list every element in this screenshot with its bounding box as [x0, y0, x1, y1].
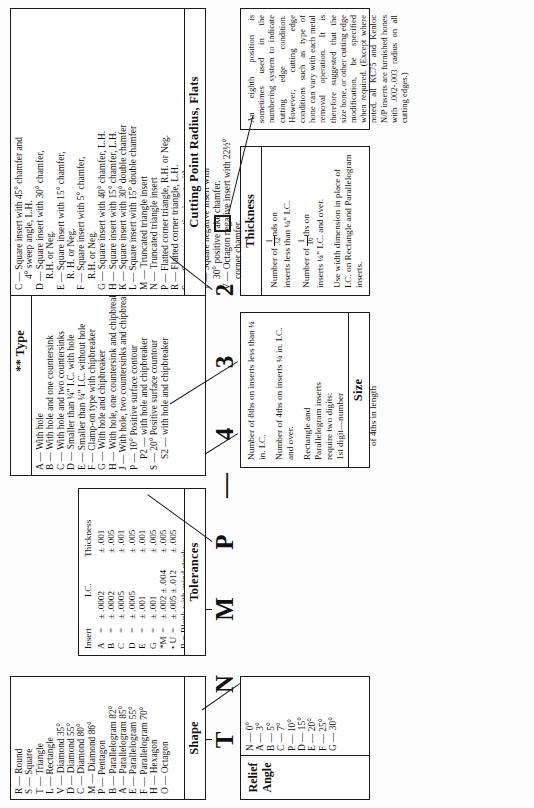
list-item: M — Diamond 86° — [87, 682, 97, 794]
list-item: N — Truncated triangle insert — [149, 14, 159, 290]
list-item: V — Diamond 35° — [56, 682, 66, 794]
tolerance-ic: ± .0005 — [127, 553, 137, 619]
thickness-p2-b: ths on — [302, 214, 312, 236]
size-box: Number of 8ths on inserts less than ¼ in… — [240, 312, 370, 468]
tolerances-box: Insert I.C. Thickness A = ± .0002 ± .001… — [78, 488, 206, 656]
size-p3-line-2: Parallelogram inserts — [313, 382, 323, 460]
list-item: G — 30° — [328, 717, 338, 751]
list-item: L — Square insert with 15° double chamfe… — [128, 14, 138, 290]
table-row: • U = ± .005 ± .012 ± .005 — [168, 495, 178, 649]
list-item: G — Square insert with 40° chamfer, L.H. — [97, 14, 107, 290]
tolerance-code: C — [116, 633, 126, 649]
thickness-p1-c: inserts less than ¼" I.C. — [282, 201, 292, 288]
list-item: R — Flatted corner triangle, L.H. — [170, 14, 180, 290]
list-item: E — Parallelogram 55° — [128, 682, 138, 794]
eighth-position-note-body: An eighth position is sometimes used in … — [241, 9, 414, 129]
list-item: R — Round — [14, 682, 24, 794]
fraction-1-16: 116 — [299, 236, 314, 245]
leader-line-tolerances — [206, 609, 212, 610]
cutting-point-code-list: C — Square insert with 45° chamfer and 4… — [14, 14, 243, 290]
table-row: E = ± .001 ± .001 — [137, 495, 147, 649]
tolerance-code: G — [148, 633, 158, 649]
relief-list-body: N — 0° A — 3° B — 5° C — 7° P — 10° D — … — [245, 717, 339, 751]
eighth-position-note-text: An eighth position is sometimes used in … — [246, 15, 409, 123]
tolerances-col-insert: Insert — [83, 597, 94, 649]
leader-line-shape — [206, 739, 212, 740]
tolerances-caption: Tolerances — [184, 489, 205, 655]
thickness-box: Thickness Number of 132nds on inserts le… — [240, 146, 370, 296]
thickness-paragraph-2: Number of 116ths on inserts ¼" I.C. and … — [299, 154, 325, 288]
list-item: D — Square insert with 30° chamfer, — [35, 14, 45, 290]
list-item: P — Flatted corner triangle, R.H. or Neg… — [160, 14, 170, 290]
cutting-point-caption: Cutting Point Radius, Flats — [184, 9, 205, 295]
cutting-point-radius-box: C — Square insert with 45° chamfer and 4… — [10, 8, 206, 296]
list-item: V — Octagon negative insert with 22½° — [222, 14, 232, 290]
thickness-body: Number of 132nds on inserts less than ¼"… — [262, 147, 365, 295]
list-item: T — Triangle — [35, 682, 45, 794]
tolerance-code: A — [96, 633, 106, 649]
list-item: C — 7° — [276, 717, 286, 751]
list-item: D — Diamond 55° — [66, 682, 76, 794]
list-item: C — Diamond 80° — [76, 682, 86, 794]
tolerance-code: • U — [168, 633, 178, 649]
thickness-p2-a: Number of — [302, 246, 312, 288]
eighth-position-note-box: An eighth position is sometimes used in … — [240, 8, 370, 130]
list-item: P — 10° — [287, 717, 297, 751]
tolerance-ic: ± .0005 — [116, 553, 126, 619]
table-row: A = ± .0002 ± .001 — [96, 495, 106, 649]
tolerances-col-ic: I.C. — [83, 557, 94, 597]
list-item: M — Truncated triangle insert — [139, 14, 149, 290]
size-paragraph-2: Number of 4ths on inserts ¼ in. I.C. and… — [274, 320, 296, 460]
cutting-point-body: C — Square insert with 45° chamfer and 4… — [11, 9, 243, 295]
list-item: A — 3° — [255, 717, 265, 751]
tolerances-col-thickness: Thickness — [83, 520, 94, 557]
code-glyph-cutting-point: 2 — [212, 278, 237, 302]
list-item: H — Square insert with 15° chamfer, L.H. — [108, 14, 118, 290]
tolerance-thk: ± .005 — [106, 530, 116, 553]
list-item: E — 20° — [307, 717, 317, 751]
tolerance-thk: ± .005 — [127, 530, 137, 553]
list-item: L — Rectangle — [45, 682, 55, 794]
thickness-p1-a: Number of — [269, 246, 279, 288]
size-p3-line-7: of 4ths in length — [368, 386, 379, 460]
list-item: C — Square insert with 45° chamfer and — [14, 14, 24, 290]
list-item: B — 5° — [266, 717, 276, 751]
list-item: 4° sweep angle, L.H. — [24, 14, 34, 290]
table-row: B = ± .0002 ± .005 — [106, 495, 116, 649]
table-row: D = ± .0005 ± .005 — [127, 495, 137, 649]
table-row: *M = ± .002 ± .004 ± .005 — [158, 495, 168, 649]
thickness-p1-b: nds on — [269, 212, 279, 236]
list-item: N — 0° — [245, 717, 255, 751]
tolerances-body: Insert I.C. Thickness A = ± .0002 ± .001… — [79, 489, 200, 655]
tolerance-thk: ± .005 — [168, 530, 178, 553]
tolerances-header-row: Insert I.C. Thickness — [83, 495, 94, 649]
tolerance-thk: ± .001 — [96, 530, 106, 553]
table-row: G = ± .001 ± .005 — [148, 495, 158, 649]
thickness-caption: Thickness — [241, 147, 262, 295]
tolerance-thk: ± .001 — [137, 530, 147, 553]
list-item: A — Parallelogram 85° — [118, 682, 128, 794]
relief-code-list: N — 0° A — 3° B — 5° C — 7° P — 10° D — … — [245, 717, 339, 751]
chart-canvas: R — Round S — Square T — Triangle L — Re… — [0, 0, 534, 808]
relief-caption-line-2: Angle — [260, 763, 274, 793]
size-p3-line-4: 1st digit—number — [335, 393, 345, 460]
tolerance-ic: ± .005 ± .012 — [168, 553, 178, 619]
insert-identification-chart-page: R — Round S — Square T — Triangle L — Re… — [0, 0, 534, 808]
tolerance-code: B — [106, 633, 116, 649]
fraction-1-32: 132 — [267, 236, 282, 245]
shape-code-list: R — Round S — Square T — Triangle L — Re… — [14, 682, 170, 794]
relief-angle-box: Relief Angle N — 0° A — 3° B — 5° C — 7°… — [240, 676, 370, 800]
shape-list-body: R — Round S — Square T — Triangle L — Re… — [11, 677, 172, 799]
list-item: B — Parallelogram 82° — [108, 682, 118, 794]
list-item: R.H. or Neg. — [45, 14, 55, 290]
shape-caption: Shape — [184, 677, 205, 799]
tolerance-ic: ± .001 — [137, 553, 147, 619]
list-item: O — Octagon — [160, 682, 170, 794]
tolerance-ic: ± .0002 — [106, 553, 116, 619]
list-item: F — Square insert with 5° chamfer, — [76, 14, 86, 290]
size-p3-line-1: Rectangle and — [302, 408, 312, 460]
tolerance-ic: ± .001 — [148, 553, 158, 619]
list-item: K — Square insert with 30° double chamfe… — [118, 14, 128, 290]
size-caption: Size — [348, 313, 369, 467]
list-item: S — Square — [24, 682, 34, 794]
